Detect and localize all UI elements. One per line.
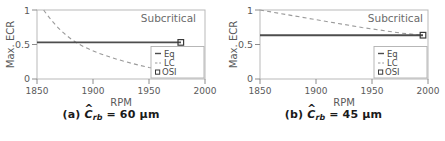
chart-svg-b: 0 0.5 1 1850 1900 1950 2000 RPM Max. ECR… — [222, 0, 445, 110]
legend-label-eq: Eq — [387, 49, 398, 59]
caption-index-b: (b) — [285, 108, 304, 121]
legend-label-osi: OSI — [385, 67, 400, 77]
panel-a: 0 0.5 1 1850 1900 1950 2000 RPM Max. ECR — [0, 0, 222, 141]
caption-value-b: = 45 µm — [329, 108, 382, 121]
caption-b: (b) ^Crb = 45 µm — [222, 108, 445, 122]
xtick-label-1900: 1900 — [82, 86, 105, 96]
x-axis-label: RPM — [333, 97, 355, 108]
ytick-label-05: 0.5 — [15, 39, 30, 50]
ytick-label-1: 1 — [24, 5, 30, 16]
legend: Eq LC OSI — [374, 47, 427, 79]
legend-box — [374, 47, 427, 79]
caption-subscript-a: rb — [93, 113, 103, 122]
xtick-label-2000: 2000 — [194, 86, 217, 96]
caption-index-a: (a) — [62, 108, 80, 121]
xtick-label-1850: 1850 — [26, 86, 49, 96]
caption-hat-a: ^ — [85, 102, 94, 114]
plot-area-b: 0 0.5 1 1850 1900 1950 2000 RPM Max. ECR… — [222, 0, 445, 110]
x-axis-label: RPM — [110, 97, 132, 108]
legend: Eq LC OSI — [151, 47, 204, 79]
figure-two-panel: 0 0.5 1 1850 1900 1950 2000 RPM Max. ECR — [0, 0, 445, 141]
xtick-label-1950: 1950 — [361, 86, 384, 96]
panel-b: 0 0.5 1 1850 1900 1950 2000 RPM Max. ECR… — [222, 0, 445, 141]
annotation-subcritical: Subcritical — [368, 12, 423, 24]
plot-area-a: 0 0.5 1 1850 1900 1950 2000 RPM Max. ECR — [0, 0, 222, 110]
legend-label-eq: Eq — [164, 49, 175, 59]
ytick-label-05: 0.5 — [238, 39, 253, 50]
ytick-label-1: 1 — [247, 5, 253, 16]
ytick-label-0: 0 — [247, 73, 253, 84]
xtick-label-1850: 1850 — [249, 86, 272, 96]
ytick-label-0: 0 — [24, 73, 30, 84]
y-axis-label: Max. ECR — [228, 21, 239, 68]
caption-hat-b: ^ — [307, 102, 316, 114]
caption-a: (a) ^Crb = 60 µm — [0, 108, 222, 122]
annotation-subcritical: Subcritical — [141, 12, 196, 24]
xtick-label-1950: 1950 — [138, 86, 161, 96]
y-axis-label: Max. ECR — [5, 21, 16, 68]
caption-symbol-b: ^C — [307, 108, 316, 121]
xtick-label-2000: 2000 — [417, 86, 440, 96]
caption-symbol-a: ^C — [85, 108, 94, 121]
caption-value-a: = 60 µm — [106, 108, 159, 121]
xtick-label-1900: 1900 — [305, 86, 328, 96]
chart-svg-a: 0 0.5 1 1850 1900 1950 2000 RPM Max. ECR — [0, 0, 222, 110]
legend-label-osi: OSI — [162, 67, 177, 77]
legend-box — [151, 47, 204, 79]
